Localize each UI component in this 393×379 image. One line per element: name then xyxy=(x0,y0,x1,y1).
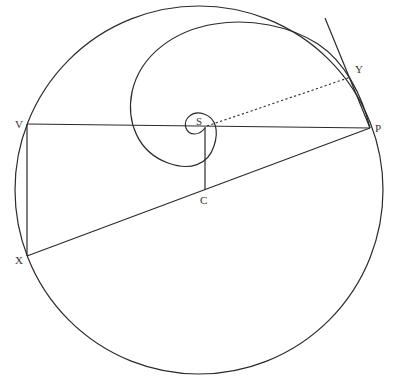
chord-xp xyxy=(27,128,370,256)
dotted-sy xyxy=(207,77,351,126)
label-c: C xyxy=(200,194,207,206)
tangent-line xyxy=(325,18,370,128)
spiral-curve xyxy=(131,22,371,166)
label-x: X xyxy=(15,254,23,266)
label-y: Y xyxy=(355,63,363,75)
spiral-circle-diagram: S P V X C Y xyxy=(0,0,393,379)
label-s: S xyxy=(196,115,202,127)
label-p: P xyxy=(375,122,381,134)
outer-circle xyxy=(15,6,383,374)
label-v: V xyxy=(15,118,23,130)
